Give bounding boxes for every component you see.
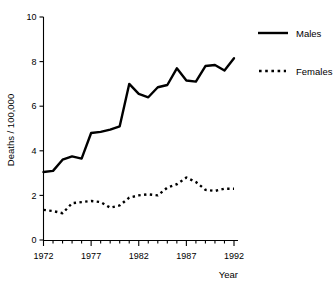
chart-canvas: Deaths / 100,000 0246810 197219771982198… xyxy=(0,0,336,289)
y-axis-ticks xyxy=(40,17,44,240)
y-axis-title: Deaths / 100,000 xyxy=(5,94,16,166)
x-tick-label: 1992 xyxy=(224,251,244,261)
y-tick-label: 4 xyxy=(31,146,36,156)
legend: Males Females xyxy=(258,28,333,77)
y-tick-label: 0 xyxy=(31,235,36,245)
y-tick-label: 2 xyxy=(31,191,36,201)
series-line-females xyxy=(44,178,235,214)
line-chart: Deaths / 100,000 0246810 197219771982198… xyxy=(0,0,336,289)
legend-label-males: Males xyxy=(296,28,322,39)
x-axis-title: Year xyxy=(219,269,238,280)
x-tick-label: 1972 xyxy=(33,251,53,261)
y-axis-tick-labels: 0246810 xyxy=(26,12,36,245)
y-tick-label: 6 xyxy=(31,101,36,111)
legend-label-females: Females xyxy=(296,66,333,77)
x-axis-ticks xyxy=(44,240,235,246)
x-tick-label: 1977 xyxy=(81,251,101,261)
x-tick-label: 1982 xyxy=(129,251,149,261)
y-tick-label: 10 xyxy=(26,12,36,22)
series-line-males xyxy=(44,58,235,172)
x-tick-label: 1987 xyxy=(176,251,196,261)
y-tick-label: 8 xyxy=(31,57,36,67)
x-axis-tick-labels: 19721977198219871992 xyxy=(33,251,244,261)
